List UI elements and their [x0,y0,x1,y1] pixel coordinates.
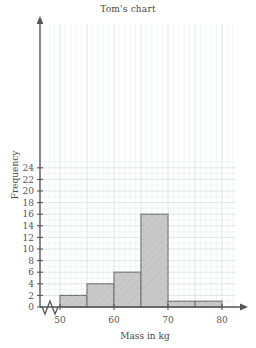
y-tick-labels: 024681012141618202224 [23,163,35,312]
y-tick-label: 6 [28,267,34,277]
x-tick-label: 80 [216,315,228,325]
y-tick-label: 12 [23,233,34,243]
x-tick-label: 50 [54,315,66,325]
y-tick-label: 14 [23,221,35,231]
x-axis-title: Mass in kg [120,331,170,341]
histogram-bar [195,301,222,307]
y-tick-label: 18 [23,198,35,208]
histogram-bar [87,284,114,307]
grid-minor [42,24,236,307]
y-tick-label: 10 [23,244,35,254]
y-tick-label: 24 [23,163,35,173]
y-tick-label: 0 [28,302,34,312]
chart-container: Tom's chart 50607080 0246810121416182022… [0,0,256,348]
histogram-plot: 50607080 024681012141618202224 Mass in k… [0,0,256,348]
x-tick-label: 70 [162,315,174,325]
histogram-bar [168,301,195,307]
x-tick-labels: 50607080 [54,315,228,325]
y-tick-label: 4 [28,279,34,289]
histogram-bar [114,272,141,307]
y-tick-label: 8 [28,256,34,266]
x-tick-label: 60 [108,315,120,325]
histogram-bar [141,214,168,307]
y-tick-label: 2 [28,291,34,301]
y-tick-label: 22 [23,175,34,185]
y-tick-label: 20 [23,186,35,196]
y-tick-label: 16 [23,209,35,219]
y-axis-title: Frequency [10,150,20,200]
histogram-bar [60,295,87,307]
